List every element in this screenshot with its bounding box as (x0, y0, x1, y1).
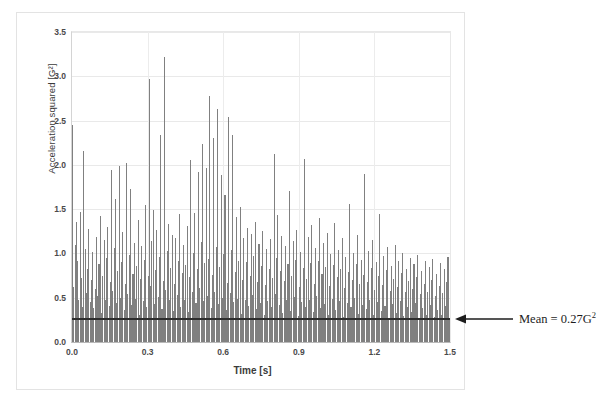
bar (237, 299, 238, 342)
bar (207, 296, 208, 342)
bar (327, 233, 328, 342)
bar (179, 214, 180, 342)
bar (410, 258, 411, 342)
bar (148, 276, 149, 342)
bar (400, 301, 401, 342)
bar (92, 252, 93, 342)
plot-area: 0.00.51.01.52.02.53.03.50.00.30.60.91.21… (71, 31, 451, 343)
bar (140, 279, 141, 342)
chart-figure: Acceleration squared [G²] Time [s] 0.00.… (16, 12, 465, 390)
bar (139, 315, 140, 342)
bar (192, 292, 193, 342)
bar (102, 276, 103, 342)
bar (395, 245, 396, 342)
bar (155, 270, 156, 342)
bar (350, 307, 351, 342)
bar (261, 266, 262, 342)
bar (293, 241, 294, 342)
x-axis-title-text: Time [s] (233, 365, 271, 376)
bar (75, 245, 76, 342)
gridline-horizontal (72, 165, 450, 166)
bar (407, 307, 408, 342)
bar (80, 212, 81, 342)
bar (411, 312, 412, 342)
bar (424, 284, 425, 342)
bar (209, 96, 210, 342)
bar (221, 175, 222, 342)
bar (420, 294, 421, 342)
bar (313, 312, 314, 342)
bar (184, 300, 185, 343)
bar (72, 298, 73, 342)
bar (241, 314, 242, 342)
bar (373, 315, 374, 342)
bar (337, 277, 338, 342)
bar (339, 301, 340, 342)
bar (298, 316, 299, 342)
bar (447, 257, 448, 342)
y-axis-tick-label: 2.0 (54, 160, 66, 170)
x-axis-tick-label: 0.3 (142, 347, 154, 357)
bar (91, 280, 92, 342)
bar (330, 254, 331, 342)
bar (338, 250, 339, 342)
bar (397, 287, 398, 342)
bar (145, 205, 146, 342)
x-axis-tick-label: 0.0 (66, 347, 78, 357)
bar (198, 172, 199, 342)
bar (267, 301, 268, 342)
bar (114, 248, 115, 342)
bar (300, 252, 301, 342)
bar (72, 289, 73, 342)
bar (131, 305, 132, 342)
bar (170, 268, 171, 342)
bar (354, 298, 355, 342)
bar (271, 307, 272, 342)
bar (372, 240, 373, 342)
bar (125, 284, 126, 342)
bar (367, 282, 368, 342)
bar (172, 235, 173, 342)
bar (284, 281, 285, 342)
bar (216, 247, 217, 342)
bar (222, 298, 223, 342)
bar (446, 282, 447, 342)
bar (183, 245, 184, 342)
bar (124, 310, 125, 342)
bar (78, 300, 79, 343)
y-axis-tick-label: 1.0 (54, 248, 66, 258)
bar (129, 255, 130, 342)
bar (281, 236, 282, 342)
y-axis-tick-label: 3.0 (54, 71, 66, 81)
bar (294, 297, 295, 342)
bar (88, 229, 89, 342)
bar (253, 256, 254, 342)
bar (246, 262, 247, 342)
bar (77, 261, 78, 342)
bar (429, 267, 430, 342)
bar (217, 109, 218, 342)
bar (169, 300, 170, 342)
bar (368, 251, 369, 342)
bar (226, 310, 227, 342)
bar (204, 263, 205, 342)
bar (412, 289, 413, 342)
x-axis-tick-label: 0.6 (217, 347, 229, 357)
bar (134, 243, 135, 342)
bar (381, 311, 382, 342)
bar (318, 261, 319, 342)
bar (175, 238, 176, 342)
bar (85, 249, 86, 342)
bar (386, 270, 387, 342)
bar (146, 307, 147, 342)
bar (194, 213, 195, 342)
bar (177, 295, 178, 342)
bar (236, 217, 237, 342)
bar (382, 285, 383, 342)
bar (347, 303, 348, 342)
bar (73, 287, 74, 342)
bar (90, 302, 91, 342)
bar (120, 298, 121, 342)
bar (416, 277, 417, 342)
bar (295, 260, 296, 342)
